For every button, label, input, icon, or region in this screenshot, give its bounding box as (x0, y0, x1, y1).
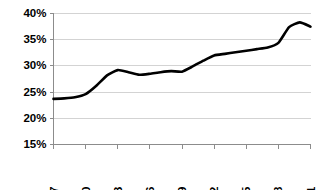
x-tick-label: 2008 (272, 186, 284, 190)
x-tick-label: 1993 (112, 187, 124, 191)
chart-canvas: 40%35%30%25%20%15% 198719901993199619992… (0, 0, 330, 190)
x-axis-tick-labels: 198719901993199619992002200520082011 (48, 186, 317, 190)
y-tick-label: 25% (23, 86, 46, 98)
y-tick-label: 30% (23, 59, 46, 71)
line-chart: 40%35%30%25%20%15% 198719901993199619992… (0, 0, 330, 190)
x-tick-label: 2005 (240, 186, 252, 190)
x-tick-label: 1987 (48, 187, 60, 191)
x-tick-label: 1996 (144, 187, 156, 191)
y-tick-label: 35% (23, 33, 46, 45)
x-tick-label: 1999 (176, 187, 188, 191)
y-tick-label: 15% (23, 138, 46, 150)
x-tick-label: 1990 (80, 187, 92, 191)
x-tick-label: 2011 (305, 186, 317, 190)
y-tick-label: 20% (23, 112, 46, 124)
y-tick-label: 40% (23, 7, 46, 19)
x-tick-label: 2002 (208, 187, 220, 191)
chart-background (0, 0, 330, 190)
